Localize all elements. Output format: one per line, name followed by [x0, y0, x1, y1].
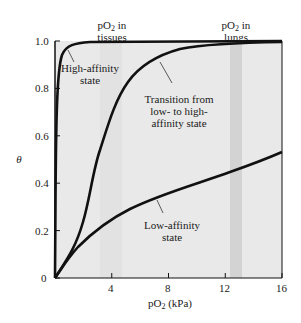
x-axis-label: pO2 (kPa) — [140, 297, 200, 309]
lungs-band — [230, 41, 242, 278]
lungs-label-po: pO — [222, 19, 235, 31]
x-tick-label-12: 12 — [219, 282, 230, 294]
tissues-label-line2: tissues — [97, 31, 126, 43]
low-affinity-label-line1: Low-affinity — [144, 219, 200, 231]
y-tick-label-0-6: 0.6 — [35, 130, 49, 142]
y-tick-label-0: 0 — [41, 272, 47, 284]
transition-label-line2: low- to high- — [150, 105, 207, 117]
high-affinity-label-line1: High-affinity — [61, 62, 119, 74]
high-affinity-label-line2: state — [80, 74, 100, 86]
x-tick-label-16: 16 — [276, 282, 287, 294]
y-tick-label-0-4: 0.4 — [35, 177, 49, 189]
transition-label-line3: affinity state — [151, 117, 206, 129]
tissues-label: pO2 in tissues — [92, 19, 132, 43]
y-tick-label-0-2: 0.2 — [35, 225, 49, 237]
low-affinity-label-line2: state — [162, 231, 182, 243]
y-tick-label-1-0: 1.0 — [35, 35, 49, 47]
y-axis-label: θ — [14, 153, 24, 165]
lungs-label-in: in — [239, 19, 250, 31]
x-axis-label-unit: (kPa) — [165, 297, 192, 309]
transition-label: Transition from low- to high- affinity s… — [140, 93, 218, 129]
lungs-label: pO2 in lungs — [216, 19, 256, 43]
x-axis-label-po: pO — [148, 297, 161, 309]
x-tick-label-4: 4 — [108, 282, 114, 294]
low-affinity-label: Low-affinity state — [142, 219, 202, 243]
y-tick-label-0-8: 0.8 — [35, 82, 49, 94]
tissues-label-po: pO — [98, 19, 111, 31]
x-tick-label-8: 8 — [165, 282, 171, 294]
high-affinity-label: High-affinity state — [58, 62, 122, 86]
transition-label-line1: Transition from — [145, 93, 214, 105]
tissues-label-in: in — [115, 19, 126, 31]
lungs-label-line2: lungs — [224, 31, 248, 43]
